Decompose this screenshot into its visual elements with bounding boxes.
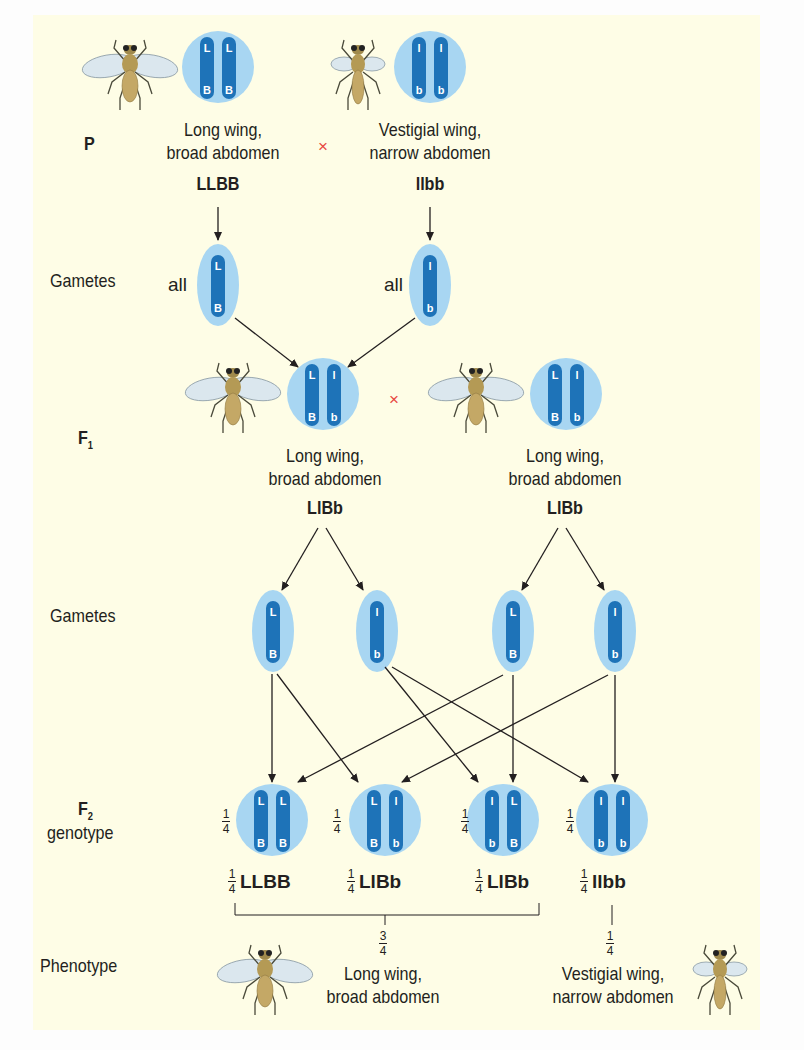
row-label-f2: F2 [78, 798, 93, 822]
f2-genotype-3: 14LlBb [475, 868, 529, 895]
svg-text:L: L [309, 369, 316, 381]
f2-genotype-1: 14LLBB [228, 868, 291, 895]
svg-text:L: L [280, 795, 287, 807]
numerator: 1 [229, 868, 236, 880]
svg-text:B: B [308, 411, 316, 423]
svg-text:b: b [331, 411, 338, 423]
row-label-gametes: Gametes [50, 270, 116, 292]
svg-text:L: L [270, 606, 277, 618]
svg-text:B: B [551, 411, 559, 423]
f2-subscript: 2 [88, 810, 93, 822]
svg-text:l: l [375, 606, 378, 618]
gamete-prefix-1: all [168, 274, 187, 296]
fly-long-wing-icon [215, 945, 314, 1015]
genotype-text: LlBb [487, 871, 529, 893]
row-label-phenotype: Phenotype [40, 955, 117, 977]
svg-text:L: L [215, 260, 222, 272]
gamete-prefix-2: all [384, 274, 403, 296]
fraction: 14 [475, 868, 483, 895]
f1-right-desc-line2: broad abdomen [501, 467, 629, 490]
parent2-desc-line2: narrow abdomen [366, 141, 494, 164]
f1-left-desc-line1: Long wing, [261, 444, 389, 467]
numerator: 1 [581, 868, 588, 880]
phenotype-2-desc-line2: narrow abdomen [545, 985, 681, 1008]
cross-symbol-f1: × [389, 390, 399, 410]
fraction: 14 [580, 868, 588, 895]
f2-label: F [78, 798, 88, 819]
svg-text:l: l [490, 795, 493, 807]
phenotype-1-desc-line1: Long wing, [319, 962, 447, 985]
f1-left-description: Long wing,broad abdomen [261, 444, 389, 490]
svg-text:L: L [204, 42, 211, 54]
denominator: 4 [229, 883, 236, 895]
f2-fraction-4: 14 [566, 808, 574, 835]
svg-text:l: l [394, 795, 397, 807]
svg-text:B: B [509, 648, 517, 660]
fly-long-wing-icon [183, 363, 282, 433]
f1-right-desc-line1: Long wing, [501, 444, 629, 467]
fly-long-wing-icon [80, 40, 179, 110]
svg-text:b: b [427, 302, 434, 314]
numerator: 1 [223, 808, 230, 820]
svg-text:b: b [438, 84, 445, 96]
svg-text:B: B [269, 648, 277, 660]
svg-text:B: B [279, 837, 287, 849]
svg-text:L: L [226, 42, 233, 54]
svg-text:B: B [225, 84, 233, 96]
svg-text:b: b [620, 837, 627, 849]
f1-right-genotype: LlBb [523, 497, 608, 519]
phenotype-1-description: Long wing,broad abdomen [319, 962, 447, 1008]
row-label-f1: F1 [78, 427, 93, 451]
svg-text:b: b [374, 648, 381, 660]
svg-text:l: l [439, 42, 442, 54]
fraction: 14 [228, 868, 236, 895]
svg-text:b: b [393, 837, 400, 849]
fraction: 14 [347, 868, 355, 895]
parent2-description: Vestigial wing,narrow abdomen [366, 118, 494, 164]
row-label-genotype: genotype [47, 822, 113, 844]
denominator: 4 [581, 883, 588, 895]
svg-text:B: B [257, 837, 265, 849]
svg-text:l: l [613, 606, 616, 618]
svg-text:l: l [621, 795, 624, 807]
numerator: 1 [567, 808, 574, 820]
svg-text:b: b [489, 837, 496, 849]
row-label-gametes-f1: Gametes [50, 605, 116, 627]
svg-text:b: b [612, 648, 619, 660]
svg-text:l: l [428, 260, 431, 272]
svg-text:l: l [417, 42, 420, 54]
f2-fraction-3: 14 [461, 808, 469, 835]
numerator: 1 [334, 808, 341, 820]
numerator: 1 [476, 868, 483, 880]
f1-subscript: 1 [88, 439, 93, 451]
denominator: 4 [223, 823, 230, 835]
fly-vestigial-wing-icon [331, 40, 385, 110]
parent2-genotype: llbb [388, 173, 473, 195]
numerator: 1 [607, 930, 614, 942]
numerator: 3 [380, 930, 387, 942]
fly-long-wing-icon [426, 363, 525, 433]
svg-text:L: L [511, 795, 518, 807]
cross-symbol-p: × [318, 137, 328, 157]
svg-text:l: l [332, 369, 335, 381]
f1-right-description: Long wing,broad abdomen [501, 444, 629, 490]
phenotype-1-desc-line2: broad abdomen [319, 985, 447, 1008]
svg-text:B: B [214, 302, 222, 314]
phenotype-fraction-1: 34 [379, 930, 387, 957]
svg-text:L: L [552, 369, 559, 381]
genotype-text: llbb [592, 871, 626, 893]
denominator: 4 [348, 883, 355, 895]
parent1-description: Long wing,broad abdomen [159, 118, 287, 164]
f1-left-genotype: LlBb [283, 497, 368, 519]
parent2-desc-line1: Vestigial wing, [366, 118, 494, 141]
phenotype-2-desc-line1: Vestigial wing, [545, 962, 681, 985]
f2-fraction-1: 14 [222, 808, 230, 835]
fly-vestigial-wing-icon [693, 945, 747, 1015]
phenotype-fraction-2: 14 [606, 930, 614, 957]
svg-text:B: B [370, 837, 378, 849]
denominator: 4 [476, 883, 483, 895]
f2-genotype-4: 14llbb [580, 868, 626, 895]
svg-text:l: l [599, 795, 602, 807]
svg-text:b: b [574, 411, 581, 423]
svg-text:b: b [416, 84, 423, 96]
